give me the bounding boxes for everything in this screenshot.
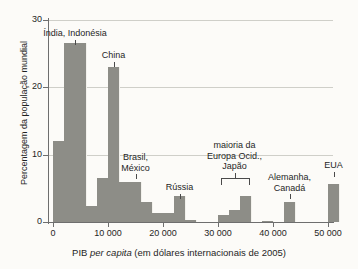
gridline-30 [49, 20, 333, 21]
y-tick-0 [43, 222, 49, 223]
annotation-line: México [121, 163, 150, 174]
annotation-line: Brasil, [121, 152, 150, 163]
annotation-eua: EUA [324, 160, 343, 171]
bar [75, 43, 87, 222]
population-gdp-histogram: 30 20 10 0 0 10 000 20 000 30 000 40 000… [0, 0, 358, 269]
annotation-alemanha-canada: Alemanha,Canadá [268, 172, 311, 193]
y-tick-10 [43, 155, 49, 156]
annotation-russia: Rússia [166, 182, 194, 193]
annotation-line: Japão [207, 161, 262, 172]
annotation-line: maioria da [207, 140, 262, 151]
annotation-bracket [221, 178, 251, 185]
bar [240, 196, 252, 222]
x-tick-label-50000: 50 000 [314, 228, 342, 238]
bar [284, 202, 296, 222]
annotation-leader-line [114, 62, 115, 67]
x-axis-label-italic: per capita [90, 247, 132, 258]
bar [185, 220, 197, 222]
annotation-india-indonesia: Índia, Indonésia [43, 28, 107, 39]
bar [174, 196, 186, 222]
bar [262, 221, 274, 222]
x-axis-label-pre: PIB [72, 247, 90, 258]
annotation-line: EUA [324, 160, 343, 171]
x-tick-30000 [218, 222, 219, 227]
x-tick-label-40000: 40 000 [259, 228, 287, 238]
annotation-leader-line [180, 194, 181, 199]
annotation-line: Europa Ocid., [207, 151, 262, 162]
y-tick-20 [43, 87, 49, 88]
gridline-10 [49, 155, 333, 156]
annotation-line: Canadá [268, 183, 311, 194]
x-tick-10000 [108, 222, 109, 227]
x-tick-label-0: 0 [50, 228, 55, 238]
x-axis-line [48, 222, 334, 223]
x-tick-20000 [163, 222, 164, 227]
annotation-leader-line [136, 174, 137, 179]
x-tick-label-20000: 20 000 [149, 228, 177, 238]
y-tick-label-0: 0 [2, 217, 42, 226]
annotation-leader-line [75, 40, 76, 45]
annotation-leader-line [290, 194, 291, 199]
x-axis-label: PIB per capita (em dólares internacionai… [0, 247, 358, 258]
bar [328, 184, 340, 222]
annotation-leader-line [334, 172, 335, 177]
x-tick-40000 [273, 222, 274, 227]
annotation-line: Rússia [166, 182, 194, 193]
annotation-line: Alemanha, [268, 172, 311, 183]
annotation-line: China [102, 50, 126, 61]
gridline-20 [49, 87, 333, 88]
x-tick-label-30000: 30 000 [204, 228, 232, 238]
plot-area: 30 20 10 0 0 10 000 20 000 30 000 40 000… [0, 0, 358, 269]
y-tick-label-30: 30 [2, 15, 42, 24]
x-tick-label-10000: 10 000 [94, 228, 122, 238]
x-tick-0 [53, 222, 54, 227]
annotation-china: China [102, 50, 126, 61]
y-axis-label: Percentagem da população mundial [19, 33, 29, 193]
annotation-europa-ocidental-japao: maioria daEuropa Ocid.,Japão [207, 140, 262, 172]
y-axis-line [48, 18, 49, 224]
annotation-line: Índia, Indonésia [43, 28, 107, 39]
annotation-brasil-mexico: Brasil,México [121, 152, 150, 173]
x-tick-50000 [328, 222, 329, 227]
y-tick-30 [43, 20, 49, 21]
x-axis-label-post: (em dólares internacionais de 2005) [132, 247, 286, 258]
